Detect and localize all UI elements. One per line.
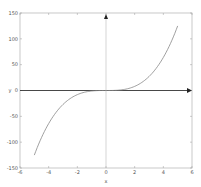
- x-tick-label: -2: [75, 169, 80, 175]
- y-tick-label: -50: [10, 113, 18, 119]
- y-tick-label: 150: [8, 10, 18, 16]
- y-tick-label: -150: [7, 165, 18, 171]
- x-axis-label: x: [105, 178, 108, 184]
- x-tick-label: 6: [190, 169, 193, 175]
- y-tick-label: 0: [15, 87, 18, 93]
- y-tick-label: 50: [12, 61, 18, 67]
- y-tick-label: 100: [8, 36, 18, 42]
- x-axis-arrow-icon: [187, 88, 192, 93]
- y-axis-label: y: [9, 87, 12, 94]
- y-axis-arrow-icon: [104, 14, 108, 19]
- x-axis-ticks: -6-4-20246: [18, 13, 194, 175]
- x-tick-label: -6: [18, 169, 23, 175]
- y-axis: [104, 14, 108, 168]
- x-tick-label: 0: [104, 169, 107, 175]
- x-tick-label: 2: [133, 169, 136, 175]
- cubic-function-chart: 150100500-50-100-150 -6-4-20246 x y: [0, 0, 201, 187]
- x-tick-label: -4: [46, 169, 51, 175]
- x-tick-label: 4: [162, 169, 165, 175]
- y-tick-label: -100: [7, 139, 18, 145]
